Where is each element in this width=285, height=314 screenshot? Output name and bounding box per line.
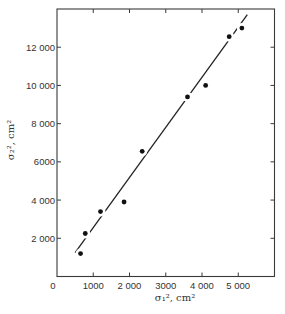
y-axis-label: σ₂², cm² — [5, 120, 16, 160]
data-point — [227, 34, 232, 39]
data-point — [122, 200, 127, 205]
x-tick-label: 0 — [50, 280, 55, 291]
x-axis-label: σ₁², cm² — [155, 292, 195, 303]
data-point — [203, 83, 208, 88]
data-points — [76, 23, 247, 258]
fit-line — [75, 15, 247, 253]
y-tick-label: 4 000 — [31, 195, 55, 206]
data-point — [78, 251, 83, 256]
x-tick-label: 3000 — [155, 280, 176, 291]
x-tick-label: 4 000 — [190, 280, 214, 291]
data-point — [239, 26, 244, 31]
x-tick-label: 2 000 — [118, 280, 142, 291]
y-tick-label: 12 000 — [26, 42, 55, 53]
x-tick-label: 1000 — [83, 280, 104, 291]
y-tick-label: 8 000 — [31, 118, 55, 129]
y-tick-label: 2 000 — [31, 233, 55, 244]
y-tick-label: 6000 — [34, 156, 55, 167]
data-point — [185, 94, 190, 99]
axis-ticks — [57, 9, 275, 277]
data-point — [140, 149, 145, 154]
data-point — [83, 231, 88, 236]
scatter-chart: 010002 00030004 0005 0002 0004 00060008 … — [0, 0, 285, 314]
data-point — [98, 209, 103, 214]
plot-frame — [57, 9, 275, 277]
y-tick-label: 10 000 — [26, 80, 55, 91]
x-tick-label: 5 000 — [226, 280, 250, 291]
